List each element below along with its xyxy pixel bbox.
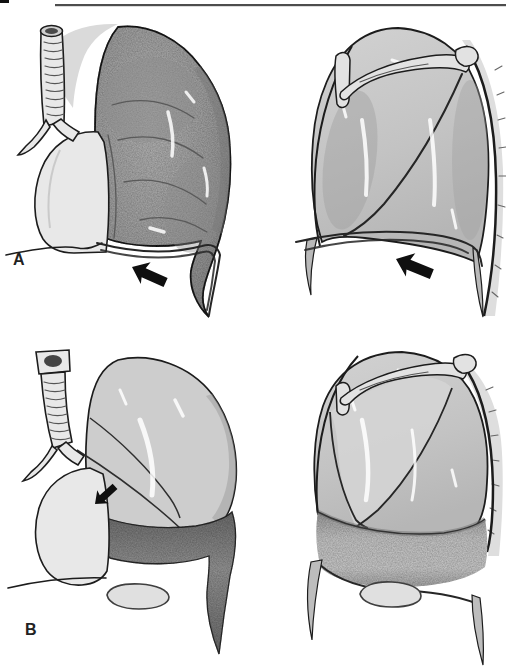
medical-figure: A B xyxy=(0,0,506,672)
lung-shading xyxy=(452,80,488,240)
arrow-up-left-icon xyxy=(127,256,171,293)
page-corner-mark xyxy=(0,0,9,3)
stomach-gas-bubble xyxy=(107,584,169,609)
arrow-up-left-icon xyxy=(391,247,436,285)
trachea xyxy=(23,350,84,481)
stomach-gas-bubble xyxy=(360,582,421,607)
posterior-costophrenic-tail xyxy=(472,595,483,665)
anterior-costophrenic-tail xyxy=(306,238,317,295)
panel-label-b: B xyxy=(25,622,37,638)
posterior-costophrenic-tail xyxy=(473,248,483,317)
heart xyxy=(35,132,109,253)
panel-label-a: A xyxy=(13,252,25,268)
header-rule xyxy=(55,4,506,6)
panel-b-frontal-view xyxy=(8,350,236,654)
left-bronchus xyxy=(23,446,57,481)
panel-top-right-lateral-view xyxy=(296,28,506,317)
anterior-costophrenic-tail xyxy=(308,560,322,640)
heart xyxy=(36,468,110,585)
right-bronchus xyxy=(53,119,79,141)
left-bronchus xyxy=(18,120,50,155)
panel-a-frontal-view xyxy=(6,24,233,317)
illustration-canvas xyxy=(0,0,506,672)
right-bronchus xyxy=(58,442,84,465)
panel-bottom-right-lateral-view xyxy=(308,352,503,665)
right-lung xyxy=(86,358,236,531)
subpulmonic-effusion xyxy=(90,512,236,654)
